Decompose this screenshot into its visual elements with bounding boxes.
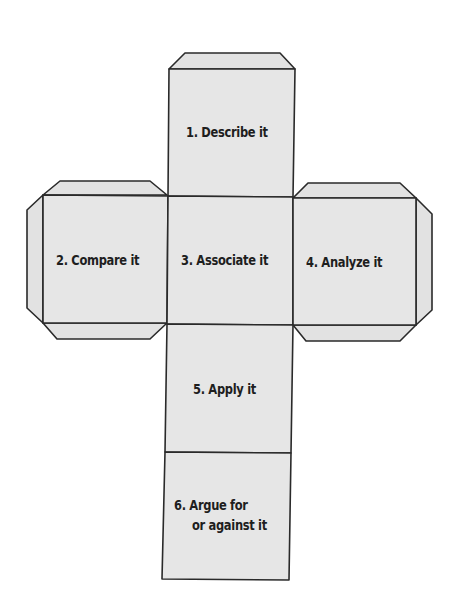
face-6-label-line2: or against it <box>192 515 267 535</box>
glue-tab-top <box>169 53 295 69</box>
glue-tab-right-outer <box>416 198 432 325</box>
glue-tab-right-top <box>293 183 416 198</box>
glue-tab-left-outer <box>27 195 43 323</box>
face-1-label: 1. Describe it <box>186 122 268 142</box>
face-3-label: 3. Associate it <box>181 250 268 270</box>
glue-tab-right-bottom <box>293 325 416 341</box>
face-2-label: 2. Compare it <box>56 250 139 270</box>
glue-tab-left-top <box>43 181 167 195</box>
face-4-label: 4. Analyze it <box>306 252 382 272</box>
face-5-label: 5. Apply it <box>193 379 256 399</box>
face-6-label-line1: 6. Argue for <box>174 495 248 515</box>
glue-tab-left-bottom <box>43 323 167 339</box>
